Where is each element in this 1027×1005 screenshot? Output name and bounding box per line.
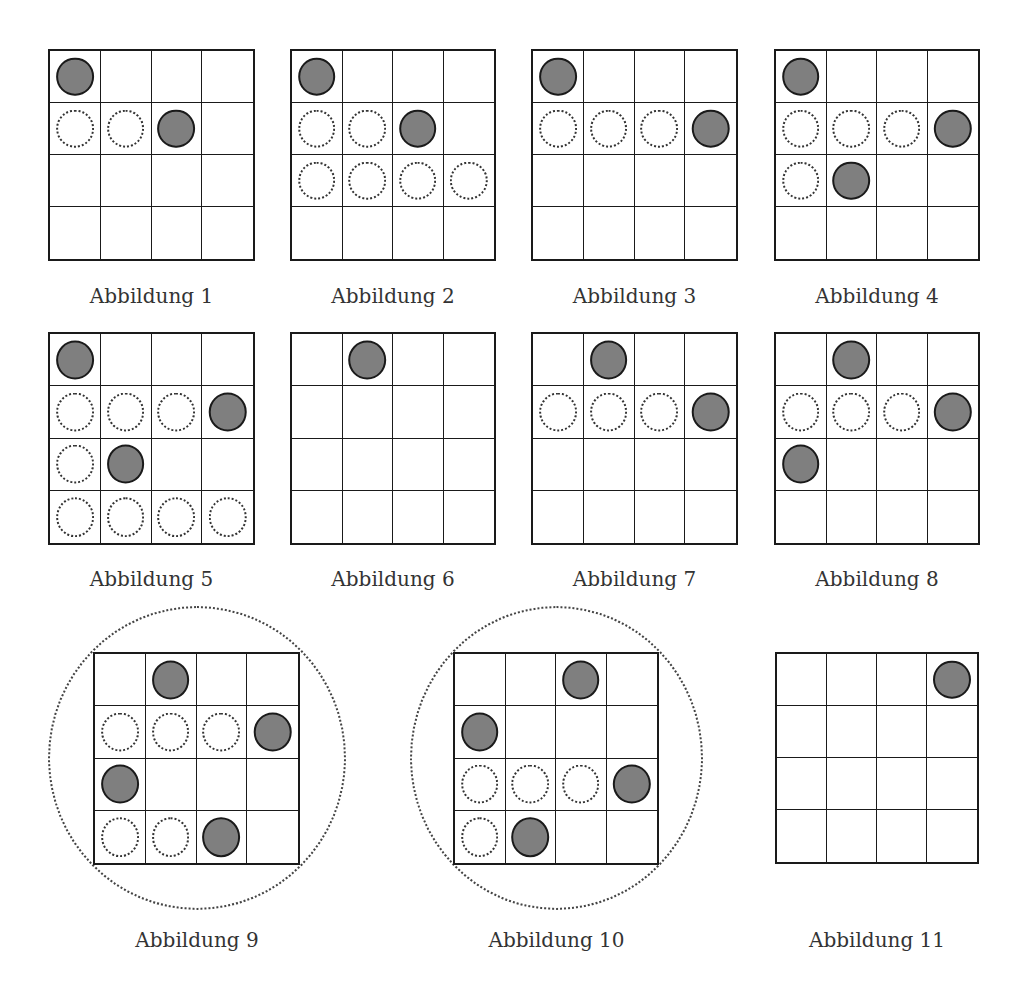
board-cell	[927, 706, 977, 758]
board-cell	[877, 758, 927, 810]
dotted-circle-icon	[157, 392, 195, 431]
board-cell	[152, 103, 203, 155]
board-cell	[444, 103, 495, 155]
dotted-circle-icon	[562, 765, 600, 804]
dotted-circle-icon	[107, 497, 145, 537]
board-cell	[444, 155, 495, 207]
board-5	[48, 332, 255, 545]
filled-piece-icon	[56, 57, 94, 96]
dotted-circle-icon	[832, 109, 870, 148]
board-cell	[506, 654, 557, 706]
board-cell	[343, 334, 394, 386]
board-cell	[506, 759, 557, 811]
board-8	[774, 332, 980, 545]
filled-piece-icon	[208, 392, 247, 431]
board-cell	[101, 207, 152, 259]
board-cell	[927, 654, 977, 706]
dotted-circle-icon	[640, 392, 678, 431]
figure-caption: Abbildung 3	[573, 284, 696, 308]
board-cell	[928, 491, 979, 543]
dotted-circle-icon	[539, 109, 577, 148]
board-cell	[50, 334, 101, 386]
filled-piece-icon	[934, 109, 972, 148]
board-cell	[152, 334, 203, 386]
dotted-circle-icon	[782, 392, 820, 431]
board-cell	[343, 386, 394, 438]
board-cell	[202, 103, 253, 155]
board-cell	[533, 155, 584, 207]
board-cell	[877, 386, 928, 438]
figure-caption: Abbildung 4	[815, 284, 938, 308]
board-cell	[928, 207, 979, 259]
board-cell	[685, 491, 736, 543]
filled-piece-icon	[298, 57, 336, 96]
board-cell	[776, 207, 827, 259]
board-cell	[928, 334, 979, 386]
board-cell	[146, 759, 197, 811]
board-cell	[202, 51, 253, 103]
board-cell	[928, 439, 979, 491]
board-cell	[50, 155, 101, 207]
board-cell	[635, 334, 686, 386]
board-cell	[584, 51, 635, 103]
board-cell	[827, 207, 878, 259]
dotted-circle-icon	[782, 109, 820, 148]
board-cell	[393, 51, 444, 103]
figure-caption: Abbildung 1	[90, 284, 213, 308]
figure-caption: Abbildung 6	[331, 567, 454, 591]
dotted-circle-icon	[208, 497, 247, 537]
board-cell	[292, 386, 343, 438]
figure-caption: Abbildung 8	[815, 567, 938, 591]
board-cell	[635, 51, 686, 103]
filled-piece-icon	[107, 445, 145, 484]
board-cell	[827, 654, 877, 706]
board-cell	[50, 439, 101, 491]
board-cell	[292, 207, 343, 259]
dotted-circle-icon	[832, 392, 870, 431]
board-cell	[927, 810, 977, 862]
board-cell	[50, 491, 101, 543]
board-cell	[776, 155, 827, 207]
board-cell	[877, 207, 928, 259]
board-cell	[444, 386, 495, 438]
dotted-circle-icon	[152, 817, 190, 857]
board-cell	[202, 155, 253, 207]
board-cell	[928, 103, 979, 155]
board-9	[93, 652, 300, 865]
board-cell	[95, 654, 146, 706]
board-cell	[152, 155, 203, 207]
board-cell	[393, 155, 444, 207]
board-cell	[928, 386, 979, 438]
board-cell	[343, 439, 394, 491]
board-cell	[685, 386, 736, 438]
board-cell	[827, 386, 878, 438]
board-cell	[202, 207, 253, 259]
dotted-circle-icon	[348, 161, 386, 200]
board-cell	[777, 706, 827, 758]
dotted-circle-icon	[590, 109, 628, 148]
board-cell	[95, 706, 146, 758]
board-cell	[635, 155, 686, 207]
board-cell	[877, 491, 928, 543]
dotted-circle-icon	[157, 497, 195, 537]
board-cell	[152, 51, 203, 103]
filled-piece-icon	[348, 340, 386, 379]
board-cell	[877, 103, 928, 155]
filled-piece-icon	[691, 109, 730, 148]
filled-piece-icon	[782, 57, 820, 96]
board-cell	[533, 103, 584, 155]
board-cell	[50, 51, 101, 103]
board-cell	[506, 811, 557, 863]
filled-piece-icon	[152, 660, 190, 699]
board-cell	[777, 758, 827, 810]
board-cell	[827, 491, 878, 543]
board-cell	[827, 706, 877, 758]
board-cell	[197, 706, 248, 758]
board-cell	[146, 654, 197, 706]
board-cell	[292, 334, 343, 386]
board-cell	[776, 51, 827, 103]
board-cell	[635, 207, 686, 259]
board-cell	[635, 386, 686, 438]
dotted-circle-icon	[450, 161, 488, 200]
figure-caption: Abbildung 10	[488, 928, 624, 952]
